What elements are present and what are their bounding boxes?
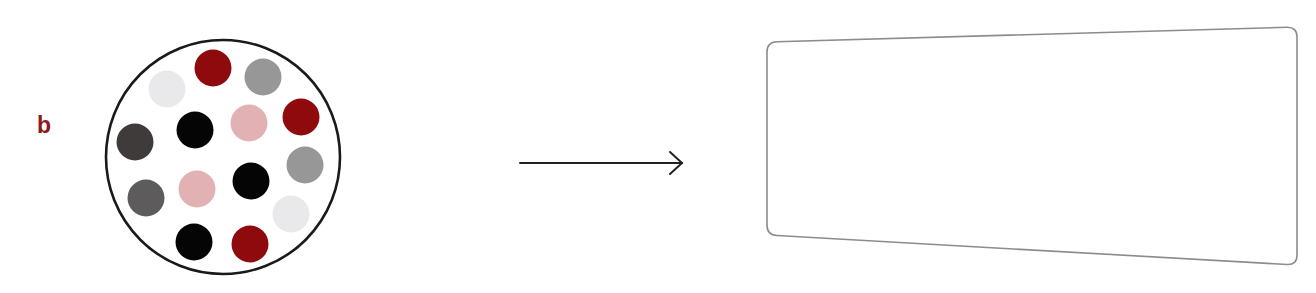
- dot-pink: [231, 105, 268, 142]
- dot-black: [176, 224, 213, 261]
- dot-pink: [179, 171, 216, 208]
- diagram-canvas: [0, 0, 1316, 293]
- dot-gray: [287, 147, 324, 184]
- dots-group: [117, 50, 324, 263]
- dot-black: [177, 112, 214, 149]
- arrow-icon: [520, 152, 682, 174]
- dot-gray: [245, 59, 282, 96]
- dot-black: [233, 163, 270, 200]
- dot-red: [195, 50, 232, 87]
- target-box: [767, 27, 1297, 264]
- dot-mid-dark-gray: [128, 180, 165, 217]
- dot-light-gray: [149, 71, 186, 108]
- dot-light-gray: [273, 196, 310, 233]
- dot-dark-gray: [117, 124, 154, 161]
- dot-red: [283, 99, 320, 136]
- dot-red: [232, 226, 269, 263]
